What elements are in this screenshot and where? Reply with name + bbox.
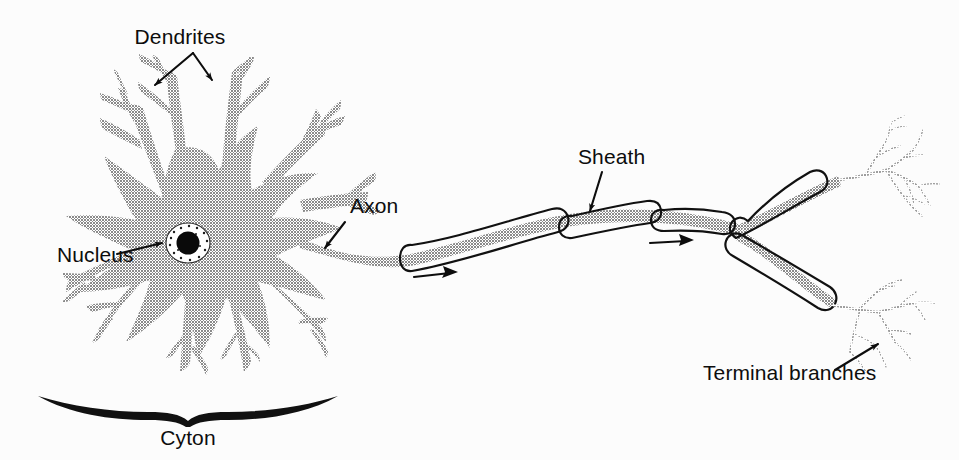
- terminal-arbor-upper: [840, 116, 939, 216]
- nucleus-group: [166, 223, 210, 263]
- label-dendrites: Dendrites: [135, 25, 226, 48]
- nucleus-core: [177, 232, 200, 255]
- label-axon: Axon: [350, 194, 398, 217]
- cyton-group: [62, 54, 381, 375]
- axon-group: [299, 170, 841, 310]
- dendrites-leader-right: [193, 53, 212, 80]
- sheath-leader: [590, 172, 602, 211]
- signal-arrow-1: [414, 266, 458, 278]
- signal-arrow-2: [650, 234, 694, 246]
- terminal-arbor-lower: [833, 280, 935, 372]
- label-terminal-branches: Terminal branches: [703, 361, 876, 384]
- label-sheath: Sheath: [578, 145, 645, 168]
- axon-branch-lower: [736, 230, 836, 308]
- neuron-diagram-svg: Dendrites Nucleus Axon Sheath Terminal b…: [0, 0, 959, 460]
- label-cyton: Cyton: [160, 426, 215, 449]
- label-nucleus: Nucleus: [57, 243, 134, 266]
- cyton-brace: [38, 396, 338, 427]
- neuron-diagram-figure: Dendrites Nucleus Axon Sheath Terminal b…: [0, 0, 959, 460]
